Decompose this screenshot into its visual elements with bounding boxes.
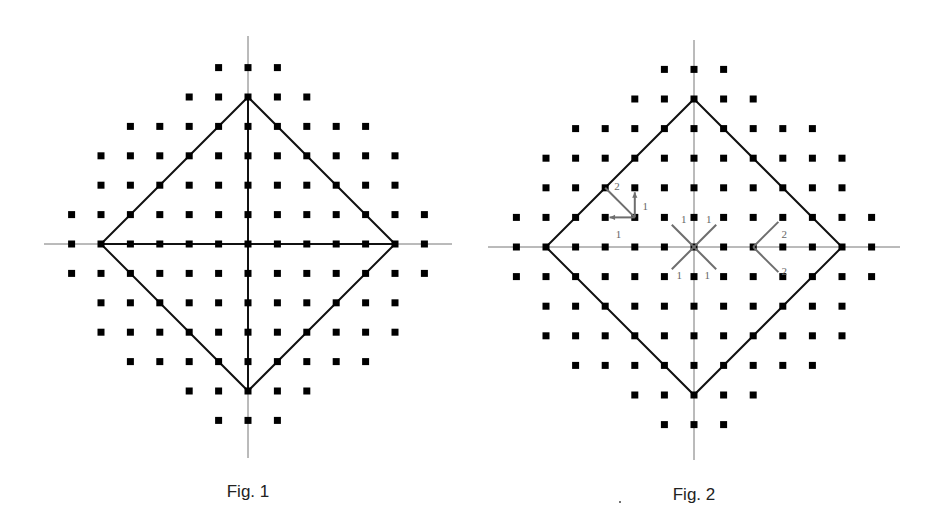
vector-length-label: 2 (614, 180, 620, 192)
lattice-point (572, 214, 579, 221)
lattice-point (750, 303, 757, 310)
lattice-point (245, 182, 252, 189)
lattice-point (661, 184, 668, 191)
lattice-point (215, 299, 222, 306)
lattice-point (186, 211, 193, 218)
lattice-point (98, 182, 105, 189)
lattice-point (186, 94, 193, 101)
lattice-point (333, 329, 340, 336)
vector-length-label: 1 (642, 200, 648, 212)
lattice-point (631, 273, 638, 280)
lattice-point (750, 125, 757, 132)
lattice-point (392, 182, 399, 189)
lattice-point (543, 155, 550, 162)
lattice-point (215, 152, 222, 159)
lattice-point (215, 388, 222, 395)
lattice-point (572, 125, 579, 132)
lattice-point (691, 184, 698, 191)
lattice-point (68, 241, 75, 248)
figure-2-diagram: 211111122 (488, 40, 900, 460)
lattice-point (127, 123, 134, 130)
lattice-point (631, 303, 638, 310)
lattice-point (215, 64, 222, 71)
lattice-point (68, 211, 75, 218)
lattice-point (421, 241, 428, 248)
lattice-point (543, 332, 550, 339)
vector-arrow (694, 247, 716, 269)
lattice-point (839, 214, 846, 221)
lattice-point (362, 358, 369, 365)
lattice-point (362, 182, 369, 189)
figure-2-caption: Fig. 2 (673, 485, 716, 505)
lattice-point (303, 270, 310, 277)
lattice-point (274, 123, 281, 130)
lattice-point (186, 123, 193, 130)
lattice-point (392, 241, 399, 248)
lattice-point (779, 155, 786, 162)
lattice-point (274, 182, 281, 189)
vector-arrow (672, 247, 694, 269)
lattice-point (513, 214, 520, 221)
lattice-point (156, 123, 163, 130)
vector-arrow (694, 225, 716, 247)
lattice-point (127, 211, 134, 218)
lattice-point (572, 244, 579, 251)
lattice-point (127, 241, 134, 248)
lattice-point (720, 273, 727, 280)
lattice-point (421, 270, 428, 277)
lattice-point (543, 303, 550, 310)
lattice-point (750, 155, 757, 162)
lattice-point (572, 273, 579, 280)
vector-arrow (753, 247, 778, 272)
lattice-point (779, 362, 786, 369)
lattice-point (779, 214, 786, 221)
lattice-point (572, 184, 579, 191)
lattice-point (543, 273, 550, 280)
lattice-point (303, 241, 310, 248)
lattice-point (215, 94, 222, 101)
lattice-point (809, 155, 816, 162)
lattice-point (392, 211, 399, 218)
lattice-point (720, 244, 727, 251)
lattice-point (691, 392, 698, 399)
lattice-point (750, 273, 757, 280)
lattice-figures: 211111122 (0, 0, 936, 531)
lattice-point (868, 214, 875, 221)
lattice-point (720, 392, 727, 399)
lattice-point (691, 96, 698, 103)
lattice-point (750, 362, 757, 369)
lattice-point (245, 270, 252, 277)
vector-length-label: 1 (706, 213, 712, 225)
lattice-point (631, 392, 638, 399)
lattice-point (513, 273, 520, 280)
lattice-point (631, 155, 638, 162)
lattice-point (274, 270, 281, 277)
lattice-point (186, 388, 193, 395)
lattice-point (362, 152, 369, 159)
lattice-point (720, 66, 727, 73)
lattice-point (691, 303, 698, 310)
lattice-point (274, 64, 281, 71)
lattice-point (186, 329, 193, 336)
lattice-point (750, 184, 757, 191)
lattice-point (245, 211, 252, 218)
lattice-point (274, 299, 281, 306)
lattice-point (127, 182, 134, 189)
lattice-point (631, 184, 638, 191)
lattice-point (720, 155, 727, 162)
lattice-point (98, 241, 105, 248)
lattice-point (333, 270, 340, 277)
lattice-point (839, 332, 846, 339)
vector-arrow (753, 222, 778, 247)
lattice-point (631, 125, 638, 132)
lattice-point (839, 303, 846, 310)
lattice-point (602, 125, 609, 132)
lattice-point (543, 214, 550, 221)
lattice-point (303, 388, 310, 395)
lattice-point (631, 96, 638, 103)
lattice-point (186, 152, 193, 159)
lattice-point (750, 214, 757, 221)
lattice-point (333, 299, 340, 306)
lattice-point (631, 244, 638, 251)
lattice-point (156, 299, 163, 306)
